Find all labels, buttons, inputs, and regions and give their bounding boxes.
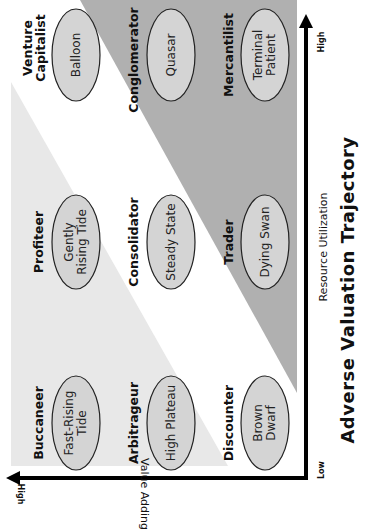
segment-label-venture-capitalist: Venture Capitalist <box>21 14 47 81</box>
x-axis-arrow-icon <box>299 14 313 28</box>
trajectory-quasar: Quasar <box>165 34 178 77</box>
trajectory-line: Patient <box>265 30 278 81</box>
x-axis-title: Resource Utilization <box>317 192 330 301</box>
segment-label-profiteer: Profiteer <box>32 211 45 273</box>
segment-label-buccaneer: Buccaneer <box>32 386 45 460</box>
segment-label-discounter: Discounter <box>222 385 235 462</box>
segment-label-arbitrageur: Arbitrageur <box>127 382 140 464</box>
trajectory-brown-dwarf: Brown Dwarf <box>252 404 278 442</box>
trajectory-fast-rising-tide: Fast-Rising Tide <box>63 391 89 456</box>
trajectory-line: Tide <box>76 391 89 456</box>
segment-label-line: Capitalist <box>34 14 47 81</box>
trajectory-balloon: Balloon <box>70 33 83 78</box>
x-axis-low-label: Low <box>317 461 326 479</box>
trajectory-steady-state: Steady State <box>165 203 178 280</box>
trajectory-dying-swan: Dying Swan <box>259 206 272 277</box>
diagram-title: Adverse Valuation Trajectory <box>337 136 358 443</box>
trajectory-line: Rising Tide <box>76 209 89 275</box>
x-axis-high-label: High <box>317 32 326 53</box>
y-axis-high-label: High <box>16 484 25 505</box>
segment-label-trader: Trader <box>222 219 235 264</box>
y-axis-title: Value Adding <box>138 458 151 530</box>
trajectory-line: Dwarf <box>265 404 278 442</box>
segment-label-mercantilist: Mercantilist <box>222 13 235 97</box>
trajectory-high-plateau: High Plateau <box>165 385 178 461</box>
trajectory-gently-rising-tide: Gently Rising Tide <box>63 209 89 275</box>
segment-label-conglomerator: Conglomerator <box>127 7 140 112</box>
trajectory-terminal-patient: Terminal Patient <box>252 30 278 81</box>
segment-label-consolidator: Consolidator <box>127 197 140 286</box>
